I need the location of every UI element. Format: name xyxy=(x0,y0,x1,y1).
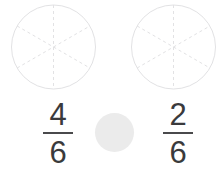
fraction-circle-left[interactable] xyxy=(11,2,96,92)
fraction-right: 2 6 xyxy=(148,99,208,168)
comparison-operator-slot[interactable] xyxy=(95,113,134,152)
worksheet-canvas: 4 6 2 6 xyxy=(0,0,218,170)
fraction-circle-right-graphic xyxy=(131,2,216,92)
fraction-left: 4 6 xyxy=(28,99,88,168)
fraction-right-bar xyxy=(163,132,193,134)
fraction-left-denominator: 6 xyxy=(49,137,66,168)
fraction-left-numerator: 4 xyxy=(49,99,66,130)
fraction-right-denominator: 6 xyxy=(169,137,186,168)
fraction-right-numerator: 2 xyxy=(169,99,186,130)
fraction-circle-left-graphic xyxy=(11,2,96,92)
fraction-circle-right[interactable] xyxy=(131,2,216,92)
fraction-left-bar xyxy=(43,132,73,134)
